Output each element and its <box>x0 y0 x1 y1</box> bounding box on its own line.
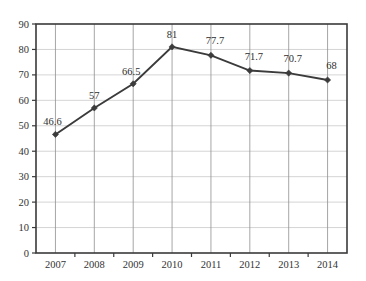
data-value-label: 77.7 <box>206 35 224 46</box>
data-value-label: 57 <box>89 90 100 101</box>
x-axis-label: 2011 <box>201 259 222 270</box>
y-axis-label: 40 <box>19 146 30 157</box>
data-value-label: 81 <box>167 29 178 40</box>
line-chart: 0102030405060708090 20072008200920102011… <box>0 0 366 281</box>
x-axis-label: 2013 <box>278 259 299 270</box>
data-value-label: 66.5 <box>122 66 140 77</box>
y-axis-label: 60 <box>19 95 30 106</box>
data-value-label: 46.6 <box>43 116 61 127</box>
y-axis-label: 20 <box>19 197 30 208</box>
y-axis-label: 50 <box>19 120 30 131</box>
y-axis-label: 70 <box>19 69 30 80</box>
chart-canvas: 0102030405060708090 20072008200920102011… <box>0 0 366 281</box>
x-axis-label: 2009 <box>123 259 144 270</box>
y-axis-label: 80 <box>19 44 30 55</box>
y-axis-label: 0 <box>24 248 29 259</box>
x-axis-label: 2010 <box>162 259 183 270</box>
y-axis-label: 30 <box>19 171 30 182</box>
x-axis-label: 2008 <box>84 259 105 270</box>
data-value-label: 70.7 <box>284 53 302 64</box>
x-axis-label: 2007 <box>45 259 66 270</box>
chart-background <box>0 0 366 281</box>
data-value-label: 71.7 <box>245 51 263 62</box>
x-axis-label: 2012 <box>239 259 260 270</box>
y-axis-label: 10 <box>19 222 30 233</box>
y-axis-label: 90 <box>19 19 30 30</box>
x-axis-label: 2014 <box>317 259 339 270</box>
data-value-label: 68 <box>326 60 337 71</box>
